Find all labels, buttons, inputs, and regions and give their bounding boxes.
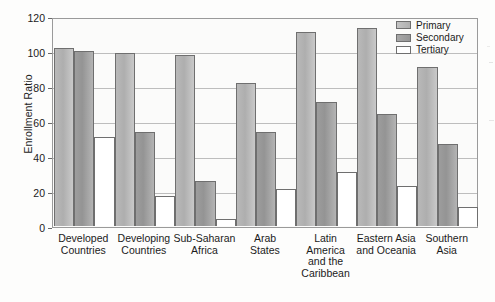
x-category-label-line: Caribbean [283,268,368,280]
bar-primary [357,28,377,226]
bar-tertiary [155,196,175,226]
legend-item-label: Secondary [416,32,464,43]
legend-swatch-icon [396,34,411,42]
x-category-label: SouthernAsia [404,233,489,256]
bar-primary [175,55,195,227]
y-tick-label: 60 [11,117,45,129]
bar-tertiary [276,189,296,226]
bar-secondary [438,144,458,226]
bar-group [54,20,115,226]
y-tick-label: 0 [11,222,45,234]
y-tick-label: 100 [11,47,45,59]
legend-swatch-icon [396,21,411,29]
bar-secondary [195,181,215,227]
bar-group [296,20,357,226]
bar-primary [236,83,256,227]
scan-artifact [489,62,493,63]
bar-secondary [135,132,155,227]
bar-group [175,20,236,226]
bar-group [115,20,176,226]
bar-tertiary [216,219,236,226]
bar-tertiary [94,137,114,226]
bar-primary [296,32,316,226]
bar-primary [417,67,437,226]
x-category-label-line: Asia [404,245,489,257]
bar-primary [54,48,74,227]
bar-secondary [316,102,336,226]
enrollment-ratio-bar-chart: Enrollment Ratio 020406080100120 Develop… [0,0,495,302]
bar-secondary [256,132,276,227]
bar-secondary [74,51,94,226]
bar-primary [115,53,135,226]
legend-item-label: Primary [416,20,450,31]
legend-item-tertiary[interactable]: Tertiary [396,44,464,56]
bar-tertiary [458,207,478,226]
legend-swatch-icon [396,46,411,54]
scan-artifact [487,46,490,47]
y-tick-label: 120 [11,12,45,24]
y-tick-mark [48,228,52,229]
bar-secondary [377,114,397,226]
y-tick-label: 80 [11,82,45,94]
legend-item-secondary[interactable]: Secondary [396,31,464,43]
scan-artifact [489,120,494,121]
chart-legend: PrimarySecondaryTertiary [396,19,464,56]
y-tick-label: 20 [11,187,45,199]
legend-item-label: Tertiary [416,44,449,55]
legend-item-primary[interactable]: Primary [396,19,464,31]
bar-group [236,20,297,226]
bar-tertiary [337,172,357,226]
x-category-label-line: Southern [404,233,489,245]
y-tick-label: 40 [11,152,45,164]
bar-tertiary [397,186,417,226]
